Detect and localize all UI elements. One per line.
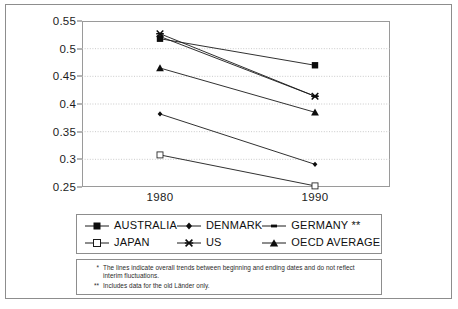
data-point-marker: [157, 152, 163, 158]
footnote-marker: *: [85, 264, 103, 280]
data-point-marker: [312, 183, 318, 189]
legend-item-us[interactable]: US: [177, 237, 262, 248]
legend-item-australia[interactable]: AUSTRALIA: [85, 220, 177, 231]
y-axis-tick-label: 0.25: [53, 181, 76, 193]
legend-label: OECD AVERAGE: [291, 237, 380, 248]
footnote-marker: **: [85, 282, 103, 290]
series-lines: [160, 34, 315, 186]
cross-x-icon: [177, 238, 201, 248]
filled-square-icon: [85, 221, 109, 231]
series-line: [160, 68, 315, 112]
series-line: [160, 34, 315, 97]
data-point-marker: [156, 64, 164, 71]
series-line: [160, 155, 315, 186]
open-square-icon: [85, 238, 109, 248]
y-axis-tick-label: 0.5: [59, 43, 76, 55]
chart-figure: 0.55 0.5 0.45 0.4 0.35 0.3 0.25 1980 199…: [0, 0, 458, 309]
legend-label: DENMARK: [206, 220, 262, 231]
data-point-marker: [313, 162, 318, 167]
plot-canvas: [82, 21, 390, 187]
y-axis-tick-label: 0.45: [53, 70, 76, 82]
legend-item-germany[interactable]: GERMANY **: [262, 220, 380, 231]
series-line: [160, 114, 315, 164]
footnote-line: ** Includes data for the old Länder only…: [85, 282, 373, 290]
data-point-marker: [311, 93, 319, 100]
filled-triangle-icon: [262, 238, 286, 248]
legend-item-japan[interactable]: JAPAN: [85, 237, 177, 248]
grid-lines: [82, 49, 390, 160]
legend-label: JAPAN: [114, 237, 150, 248]
legend-label: GERMANY **: [291, 220, 360, 231]
y-axis-tick-label: 0.3: [59, 153, 76, 165]
legend-item-oecd-average[interactable]: OECD AVERAGE: [262, 237, 380, 248]
x-axis-tick-label: 1990: [302, 191, 329, 203]
footnotes: * The lines indicate overall trends betw…: [76, 259, 382, 295]
x-axis-tick-labels: 1980 1990: [82, 191, 390, 207]
data-point-marker: [158, 111, 163, 116]
footnote-line: * The lines indicate overall trends betw…: [85, 264, 373, 280]
footnote-text: The lines indicate overall trends betwee…: [103, 264, 373, 280]
y-axis-tick-label: 0.4: [59, 98, 76, 110]
small-dash-icon: [262, 221, 286, 231]
plot-area: [82, 21, 390, 187]
series-markers: [156, 30, 319, 188]
x-axis-tick-label: 1980: [147, 191, 174, 203]
legend-grid: AUSTRALIA DENMARK GERM: [77, 215, 381, 253]
footnote-text: Includes data for the old Länder only.: [103, 282, 373, 290]
y-axis-tick-label: 0.35: [53, 126, 76, 138]
small-diamond-icon: [177, 221, 201, 231]
y-axis-tick-labels: 0.55 0.5 0.45 0.4 0.35 0.3 0.25: [26, 21, 76, 187]
footnote-text-main: Includes data for the old Länder only.: [103, 282, 210, 289]
footnote-text-continuation: interim fluctuations.: [103, 272, 373, 280]
data-point-marker: [312, 62, 318, 68]
legend-item-denmark[interactable]: DENMARK: [177, 220, 262, 231]
y-axis-tick-label: 0.55: [53, 15, 76, 27]
legend-label: AUSTRALIA: [114, 220, 177, 231]
footnote-text-main: The lines indicate overall trends betwee…: [103, 264, 355, 271]
legend: AUSTRALIA DENMARK GERM: [76, 214, 382, 254]
legend-label: US: [206, 237, 222, 248]
